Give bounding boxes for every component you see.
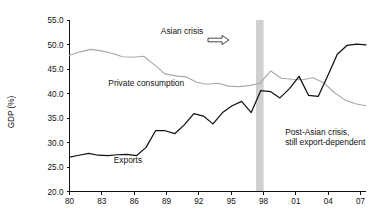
y-tick-label: 30.0 <box>48 139 64 148</box>
series-label-exports: Exports <box>114 155 142 165</box>
axis-lines <box>70 20 367 192</box>
x-tick-label: 98 <box>259 197 269 206</box>
y-tick-label: 25.0 <box>48 163 64 172</box>
y-axis-tick-labels: 20.025.030.035.040.045.050.055.0 <box>48 16 64 197</box>
x-axis-tick-labels: 80838689929598010407 <box>65 197 366 206</box>
line-chart: 20.025.030.035.040.045.050.055.0 8083868… <box>0 0 375 215</box>
x-tick-label: 80 <box>65 197 75 206</box>
annotation-post-crisis-line1: Post-Asian crisis, <box>285 127 349 137</box>
y-axis-title: GDP (%) <box>7 95 16 128</box>
x-tick-label: 89 <box>162 197 172 206</box>
y-tick-label: 20.0 <box>48 188 64 197</box>
x-tick-label: 95 <box>227 197 237 206</box>
x-tick-label: 92 <box>194 197 204 206</box>
x-tick-label: 83 <box>97 197 107 206</box>
y-tick-label: 35.0 <box>48 114 64 123</box>
asian-crisis-shaded-band <box>256 20 264 192</box>
x-tick-label: 01 <box>291 197 301 206</box>
annotation-post-crisis-line2: still export-dependent <box>285 137 366 147</box>
y-tick-label: 40.0 <box>48 90 64 99</box>
y-tick-label: 50.0 <box>48 41 64 50</box>
annotation-asian-crisis-text: Asian crisis <box>161 26 203 36</box>
right-hollow-arrow-icon <box>208 35 229 44</box>
chart-figure: 20.025.030.035.040.045.050.055.0 8083868… <box>0 0 375 215</box>
series-label-private-consumption: Private consumption <box>108 78 184 88</box>
x-tick-label: 04 <box>324 197 334 206</box>
y-tick-label: 45.0 <box>48 65 64 74</box>
x-tick-label: 07 <box>356 197 366 206</box>
y-tick-label: 55.0 <box>48 16 64 25</box>
x-tick-label: 86 <box>130 197 140 206</box>
